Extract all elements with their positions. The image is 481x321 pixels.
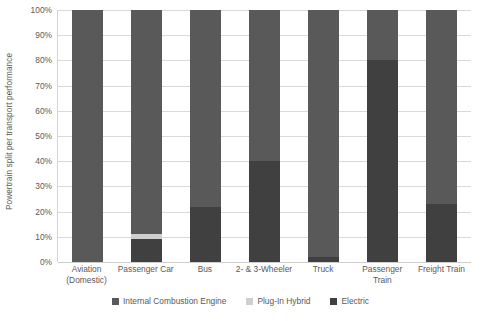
- x-axis-label: Aviation(Domestic): [57, 264, 116, 292]
- legend-label: Internal Combustion Engine: [123, 296, 226, 306]
- y-axis-title-text: Powertrain split per transport performan…: [6, 52, 15, 209]
- stacked-bar-chart: Powertrain split per transport performan…: [0, 0, 481, 321]
- bar-segment[interactable]: [308, 10, 339, 257]
- x-axis-label: Passenger Train: [353, 264, 412, 292]
- x-axis-label: Passenger Car: [116, 264, 175, 292]
- y-axis-title: Powertrain split per transport performan…: [2, 0, 18, 262]
- x-axis-label: Truck: [294, 264, 353, 292]
- y-axis-tick-label: 90%: [35, 30, 52, 40]
- bar-segment[interactable]: [308, 257, 339, 262]
- bar-segment[interactable]: [426, 204, 457, 262]
- bar-segment[interactable]: [426, 10, 457, 204]
- y-axis-tick-label: 30%: [35, 181, 52, 191]
- bar-segment[interactable]: [131, 239, 162, 262]
- y-axis-tick-label: 20%: [35, 207, 52, 217]
- legend-swatch-icon: [246, 298, 253, 305]
- bar-segment[interactable]: [190, 207, 221, 262]
- y-axis-tick-labels: 0%10%20%30%40%50%60%70%80%90%100%: [18, 10, 56, 262]
- y-axis-tick-label: 80%: [35, 55, 52, 65]
- gridline: [58, 262, 471, 263]
- bar-segment[interactable]: [249, 161, 280, 262]
- stacked-bar[interactable]: [131, 10, 162, 262]
- bar-segment[interactable]: [131, 10, 162, 234]
- bar-series-container: [58, 10, 471, 262]
- bar-segment[interactable]: [72, 10, 103, 262]
- legend-swatch-icon: [112, 298, 119, 305]
- bar-slot: [412, 10, 471, 262]
- x-axis-label: 2- & 3-Wheeler: [234, 264, 293, 292]
- bar-slot: [294, 10, 353, 262]
- legend-item[interactable]: Plug-In Hybrid: [246, 296, 310, 306]
- bar-slot: [353, 10, 412, 262]
- legend-label: Plug-In Hybrid: [257, 296, 310, 306]
- bar-slot: [176, 10, 235, 262]
- stacked-bar[interactable]: [308, 10, 339, 262]
- y-axis-tick-label: 0%: [40, 257, 52, 267]
- x-axis-category-labels: Aviation(Domestic)Passenger CarBus2- & 3…: [57, 264, 471, 292]
- bar-segment[interactable]: [190, 10, 221, 207]
- y-axis-tick-label: 50%: [35, 131, 52, 141]
- stacked-bar[interactable]: [249, 10, 280, 262]
- y-axis-tick-label: 10%: [35, 232, 52, 242]
- y-axis-tick-label: 40%: [35, 156, 52, 166]
- plot-area: [57, 10, 471, 262]
- y-axis-tick-label: 70%: [35, 81, 52, 91]
- stacked-bar[interactable]: [72, 10, 103, 262]
- stacked-bar[interactable]: [426, 10, 457, 262]
- bar-segment[interactable]: [367, 10, 398, 60]
- chart-legend: Internal Combustion EnginePlug-In Hybrid…: [0, 296, 481, 306]
- bar-segment[interactable]: [367, 60, 398, 262]
- legend-label: Electric: [341, 296, 368, 306]
- bar-segment[interactable]: [249, 10, 280, 161]
- stacked-bar[interactable]: [190, 10, 221, 262]
- x-axis-label: Freight Train: [412, 264, 471, 292]
- stacked-bar[interactable]: [367, 10, 398, 262]
- bar-slot: [235, 10, 294, 262]
- y-axis-tick-label: 100%: [31, 5, 52, 15]
- legend-item[interactable]: Internal Combustion Engine: [112, 296, 226, 306]
- x-axis-label: Bus: [175, 264, 234, 292]
- y-axis-tick-label: 60%: [35, 106, 52, 116]
- legend-swatch-icon: [330, 298, 337, 305]
- bar-slot: [58, 10, 117, 262]
- bar-slot: [117, 10, 176, 262]
- legend-item[interactable]: Electric: [330, 296, 368, 306]
